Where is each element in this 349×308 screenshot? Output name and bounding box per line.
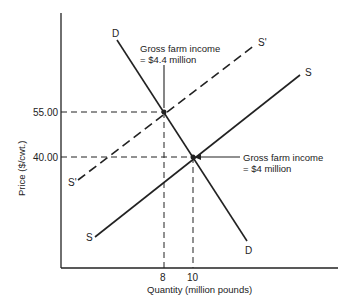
annotation-1-line2: = $4.4 million bbox=[140, 54, 196, 65]
supply-demand-chart: 55.00 40.00 8 10 Quantity (million pound… bbox=[0, 0, 349, 308]
x-tick-10: 10 bbox=[187, 272, 199, 283]
demand-curve bbox=[117, 40, 247, 241]
x-axis-label: Quantity (million pounds) bbox=[147, 284, 252, 295]
annotation-2-line2: = $4 million bbox=[243, 163, 291, 174]
equilibrium-point-1 bbox=[162, 110, 167, 115]
demand-label-bottom: D bbox=[245, 245, 252, 256]
supply-prime-label-top: S' bbox=[258, 37, 267, 48]
demand-label-top: D bbox=[112, 28, 119, 39]
arrow-head-icon bbox=[194, 154, 201, 160]
y-tick-55: 55.00 bbox=[33, 107, 58, 118]
supply-label-top: S bbox=[305, 67, 312, 78]
supply-label-bottom: S bbox=[86, 232, 93, 243]
annotation-2-line1: Gross farm income bbox=[243, 152, 323, 163]
x-tick-8: 8 bbox=[160, 272, 166, 283]
annotation-1-line1: Gross farm income bbox=[140, 43, 220, 54]
y-tick-40: 40.00 bbox=[33, 152, 58, 163]
supply-prime-label-bottom: S' bbox=[68, 177, 77, 188]
y-axis-label: Price ($/cwt.) bbox=[16, 141, 27, 196]
